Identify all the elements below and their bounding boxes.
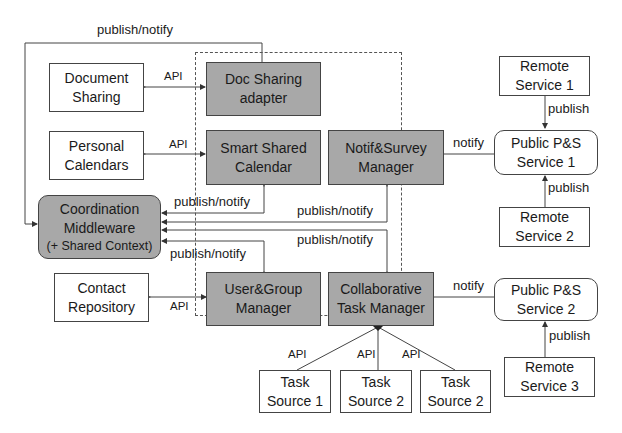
- public-ps-service-2-box: Public P&S Service 2: [494, 278, 598, 321]
- box-label: Calendars: [65, 156, 129, 175]
- task-source-1-box: Task Source 1: [259, 370, 331, 413]
- publish-notify-calendar-label: publish/notify: [174, 194, 250, 209]
- box-label: Service 2: [515, 227, 573, 246]
- notify-1-label: notify: [453, 135, 484, 150]
- api-task-source-2-label: API: [357, 348, 376, 360]
- box-label: Public P&S: [511, 134, 581, 153]
- box-label: Collaborative: [340, 280, 422, 299]
- publish-rs2-label: publish: [548, 180, 589, 195]
- personal-calendars-box: Personal Calendars: [49, 131, 144, 180]
- box-label: Source 2: [427, 392, 483, 411]
- publish-notify-user-label: publish/notify: [170, 246, 246, 261]
- box-label: User&Group: [225, 280, 303, 299]
- top-publish-notify-label: publish/notify: [97, 22, 173, 37]
- box-label: Calendar: [235, 158, 292, 177]
- box-label: Task: [441, 373, 470, 392]
- box-label: Doc Sharing: [225, 70, 302, 89]
- box-label: Public P&S: [511, 281, 581, 300]
- box-label: Document: [65, 69, 129, 88]
- box-label: Service 3: [520, 377, 578, 396]
- box-label: Repository: [68, 298, 135, 317]
- public-ps-service-1-box: Public P&S Service 1: [494, 130, 598, 175]
- coordination-middleware-box: Coordination Middleware (+ Shared Contex…: [38, 195, 161, 259]
- box-label: Remote: [525, 358, 574, 377]
- box-label: Service 1: [515, 76, 573, 95]
- api-doc-label: API: [164, 70, 183, 82]
- api-calendar-label: API: [169, 138, 188, 150]
- notify-2-label: notify: [453, 278, 484, 293]
- api-task-source-1-label: API: [288, 348, 307, 360]
- box-label: Personal: [69, 137, 124, 156]
- document-sharing-box: Document Sharing: [49, 63, 144, 112]
- box-label: Remote: [520, 57, 569, 76]
- box-label: Source 2: [348, 392, 404, 411]
- box-label: Service 2: [517, 300, 575, 319]
- box-label: Remote: [520, 208, 569, 227]
- publish-notify-notif-label: publish/notify: [297, 203, 373, 218]
- remote-service-2-box: Remote Service 2: [499, 207, 590, 247]
- collaborative-task-manager-box: Collaborative Task Manager: [328, 272, 434, 326]
- box-label: Middleware: [64, 219, 136, 238]
- publish-notify-task-label: publish/notify: [297, 232, 373, 247]
- box-label: Manager: [358, 158, 413, 177]
- box-label: Contact: [77, 279, 125, 298]
- task-source-2-box: Task Source 2: [340, 370, 412, 413]
- doc-sharing-adapter-box: Doc Sharing adapter: [206, 62, 321, 116]
- box-label: Task Manager: [337, 299, 425, 318]
- box-label: (+ Shared Context): [47, 238, 153, 255]
- remote-service-1-box: Remote Service 1: [499, 56, 590, 96]
- box-label: Notif&Survey: [345, 139, 427, 158]
- box-label: Sharing: [72, 88, 120, 107]
- box-label: Service 1: [517, 153, 575, 172]
- box-label: Smart Shared: [220, 139, 306, 158]
- remote-service-3-box: Remote Service 3: [504, 357, 595, 397]
- task-source-2b-box: Task Source 2: [420, 370, 491, 413]
- publish-rs3-label: publish: [549, 328, 590, 343]
- box-label: Source 1: [267, 392, 323, 411]
- contact-repository-box: Contact Repository: [54, 273, 149, 322]
- box-label: Coordination: [60, 200, 139, 219]
- user-group-manager-box: User&Group Manager: [206, 272, 321, 326]
- box-label: Task: [281, 373, 310, 392]
- smart-shared-calendar-box: Smart Shared Calendar: [206, 130, 321, 185]
- box-label: adapter: [240, 89, 287, 108]
- box-label: Manager: [236, 299, 291, 318]
- api-task-source-3-label: API: [402, 348, 421, 360]
- publish-rs1-label: publish: [548, 101, 589, 116]
- api-contact-label: API: [170, 300, 189, 312]
- architecture-diagram: Document Sharing Personal Calendars Coor…: [0, 0, 622, 433]
- box-label: Task: [362, 373, 391, 392]
- notif-survey-manager-box: Notif&Survey Manager: [328, 130, 444, 185]
